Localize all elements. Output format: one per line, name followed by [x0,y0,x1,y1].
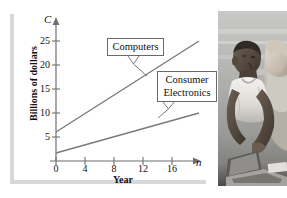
xtick-label-16: 16 [162,163,182,174]
y-axis-variable-label: C [44,13,51,25]
xtick-label-0: 0 [46,163,66,174]
callout-consumer-line2: Electronics [162,87,212,100]
xtick-label-4: 4 [75,163,95,174]
figure-container: 25 20 15 10 5 0 4 8 12 16 Billions of do… [0,0,287,198]
callout-computers-label: Computers [112,41,158,52]
x-axis-title: Year [88,174,158,185]
y-axis-title: Billions of dollars [28,29,39,139]
photo-people-with-laptop [218,11,287,186]
callout-consumer-electronics: Consumer Electronics [157,71,217,102]
callout-consumer-line1: Consumer [162,74,212,87]
xtick-label-8: 8 [104,163,124,174]
xtick-label-12: 12 [133,163,153,174]
leader-computers [128,56,147,76]
callout-computers: Computers [107,38,164,56]
x-axis-variable-label: n [196,156,202,168]
y-axis-arrowhead [53,17,60,25]
leader-consumer-electronics [158,102,174,118]
